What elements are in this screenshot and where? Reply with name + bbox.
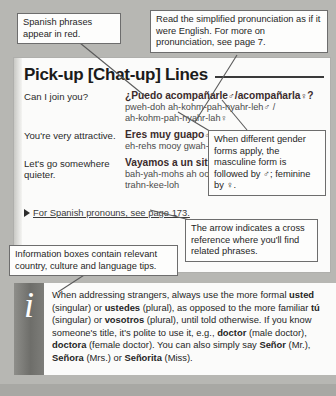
callout-red-phrases: Spanish phrases appear in red. — [17, 13, 121, 44]
phrase-row: Can I join you? ¿Puedo acompañarle♂/acom… — [24, 90, 326, 124]
callout-info-note: Information boxes contain relevant count… — [9, 245, 178, 276]
section-title-row: Pick-up [Chat-up] Lines — [24, 63, 324, 87]
male-symbol-icon: ♂ — [228, 91, 235, 101]
female-symbol-icon: ♀ — [221, 113, 228, 123]
callout-pronunciation: Read the simplified pronunciation as if … — [150, 10, 328, 53]
phrase-english: Let's go somewhere quieter. — [24, 157, 125, 191]
cross-reference-text: For Spanish pronouns, see page 173. — [33, 207, 190, 218]
page-title: Pick-up [Chat-up] Lines — [24, 65, 208, 85]
male-symbol-icon: ♂ / — [263, 102, 275, 112]
cross-reference-line[interactable]: For Spanish pronouns, see page 173. — [24, 207, 190, 218]
phrase-english: You're very attractive. — [24, 129, 125, 152]
triangle-arrow-icon — [24, 209, 30, 217]
callout-gender-forms: When different gender forms apply, the m… — [208, 130, 326, 196]
callout-info-note-text: Information boxes contain relevant count… — [15, 249, 157, 271]
phrase-pronunciation-line: ah-kohm-pah-nyahr-lah♀ — [125, 113, 326, 124]
phrase-spanish: ¿Puedo acompañarle♂/acompañarla♀? — [125, 90, 326, 102]
phrase-pronunciation-line: pweh-doh ah-kohm-pah-nyahr-leh♂ / — [125, 102, 326, 113]
info-box-text: When addressing strangers, always use th… — [44, 283, 336, 375]
phrase-english: Can I join you? — [24, 90, 125, 124]
phrase-spanish-block: ¿Puedo acompañarle♂/acompañarla♀? pweh-d… — [125, 90, 326, 124]
info-icon-band: i — [14, 283, 44, 375]
page-bottom-strip — [0, 384, 336, 396]
callout-arrow-note-text: The arrow indicates a cross reference wh… — [191, 223, 305, 256]
callout-red-phrases-text: Spanish phrases appear in red. — [23, 17, 92, 39]
page-gutter-shadow — [14, 58, 22, 272]
callout-gender-text-post: . — [233, 180, 236, 190]
info-box: i When addressing strangers, always use … — [14, 283, 336, 375]
callout-arrow-note: The arrow indicates a cross reference wh… — [185, 219, 318, 262]
info-icon: i — [14, 285, 44, 325]
title-rule — [215, 76, 324, 78]
callout-pronunciation-text: Read the simplified pronunciation as if … — [156, 14, 320, 47]
phrasebook-page-screenshot: Pick-up [Chat-up] Lines Can I join you? … — [0, 0, 336, 396]
